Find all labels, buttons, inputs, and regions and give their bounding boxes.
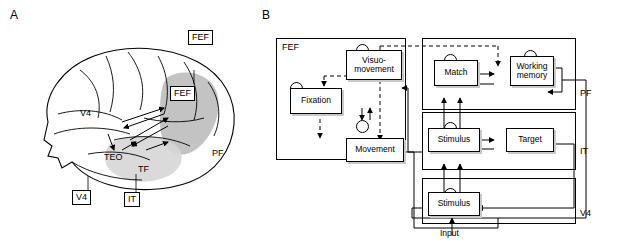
brain-label-v4-box: V4 (72, 190, 91, 205)
node-match[interactable]: Match (434, 60, 478, 86)
brain-label-tf: TF (138, 164, 149, 174)
brain-label-fef-box: FEF (188, 30, 213, 45)
panel-a-label: A (10, 8, 18, 22)
group-label-it: IT (580, 146, 588, 156)
node-movement[interactable]: Movement (346, 138, 404, 162)
node-target[interactable]: Target (506, 128, 554, 152)
brain-label-teo: TEO (104, 152, 123, 162)
node-stimulus-v4[interactable]: Stimulus (428, 192, 480, 216)
brain-label-pf: PF (212, 148, 224, 158)
node-stimulus-it[interactable]: Stimulus (428, 128, 480, 152)
node-visuo-movement[interactable]: Visuo- movement (346, 50, 402, 80)
brain-label-it-box: IT (124, 192, 140, 207)
node-working-memory[interactable]: Working memory (510, 56, 554, 86)
brain-label-fef: FEF (170, 86, 195, 101)
node-fixation[interactable]: Fixation (290, 88, 342, 114)
brain-label-v4: V4 (80, 108, 91, 118)
brain-diagram: FEF FEF V4 TEO TF PF V4 IT (18, 22, 258, 222)
group-label-pf: PF (580, 88, 592, 98)
panel-b-label: B (262, 8, 270, 22)
model-block-diagram: FEF PF IT V4 Fixation Visuo- movement Mo… (262, 22, 634, 240)
group-label-fef: FEF (282, 42, 299, 52)
group-label-v4: V4 (580, 208, 591, 218)
input-label: Input (440, 228, 459, 238)
